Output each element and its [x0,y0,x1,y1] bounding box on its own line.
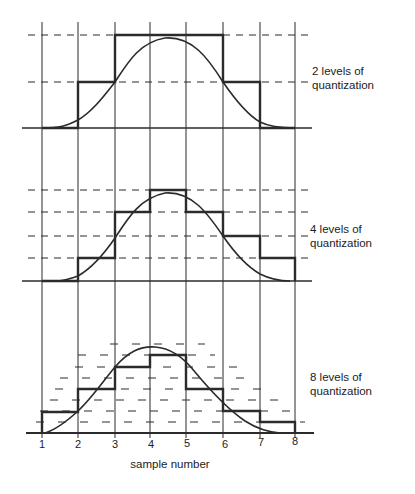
quantization-level-lines [28,190,312,258]
panel-4-levels [22,190,312,281]
x-tick-3: 3 [112,438,118,450]
x-tick-2: 2 [75,438,81,450]
panel-label-2-levels: 2 levels of quantization [312,64,374,92]
quantization-level-lines [28,35,312,82]
panel-8-levels [26,344,314,433]
label-line-1: 2 levels of [312,64,374,78]
x-tick-4: 4 [148,438,154,450]
label-line-2: quantization [312,78,374,92]
label-line-2: quantization [310,384,372,398]
panel-label-8-levels: 8 levels of quantization [310,370,372,398]
x-tick-6: 6 [222,438,228,450]
label-line-1: 4 levels of [310,222,372,236]
x-axis-label: sample number [130,458,209,470]
panel-2-levels [22,35,312,128]
label-line-1: 8 levels of [310,370,372,384]
x-tick-8: 8 [292,435,298,447]
x-tick-5: 5 [184,437,190,449]
label-line-2: quantization [310,236,372,250]
panel-label-4-levels: 4 levels of quantization [310,222,372,250]
x-tick-7: 7 [258,436,264,448]
sample-grid-lines [42,22,295,438]
quantized-staircase [42,35,295,128]
quantized-staircase [42,190,295,281]
x-tick-1: 1 [39,438,45,450]
